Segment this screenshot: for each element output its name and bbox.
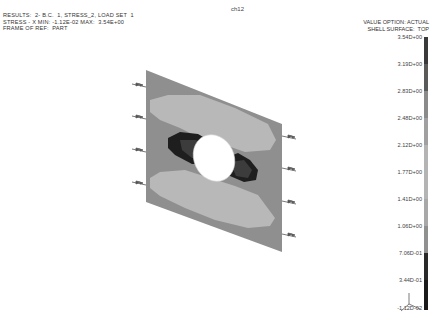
load-arrow-icon	[132, 83, 146, 87]
legend-tick-label: 1.41D+00	[372, 196, 422, 202]
load-arrow-icon	[282, 233, 296, 237]
legend-tick-label: 1.77D+00	[372, 169, 422, 175]
legend-tick-label: 3.54D+00	[372, 34, 422, 40]
legend-tick-label: 2.12D+00	[372, 142, 422, 148]
legend-tick-label: 2.83D+00	[372, 88, 422, 94]
load-arrow-icon	[132, 115, 146, 119]
load-arrow-icon	[132, 148, 146, 152]
legend-tick-label: 2.48D+00	[372, 115, 422, 121]
fem-plate-viewport[interactable]	[0, 0, 437, 324]
legend-tick-label: -1.12D-02	[372, 305, 422, 311]
load-arrow-icon	[132, 181, 146, 185]
legend-tick-label: 3.44D-01	[372, 277, 422, 283]
left-load-arrows	[132, 83, 146, 185]
load-arrow-icon	[282, 200, 296, 204]
right-load-arrows	[282, 135, 296, 237]
legend-tick-label: 1.06D+00	[372, 223, 422, 229]
load-arrow-icon	[282, 167, 296, 171]
legend-tick-label: 7.06D-01	[372, 250, 422, 256]
legend-tick-label: 3.19D+00	[372, 61, 422, 67]
load-arrow-icon	[282, 135, 296, 139]
